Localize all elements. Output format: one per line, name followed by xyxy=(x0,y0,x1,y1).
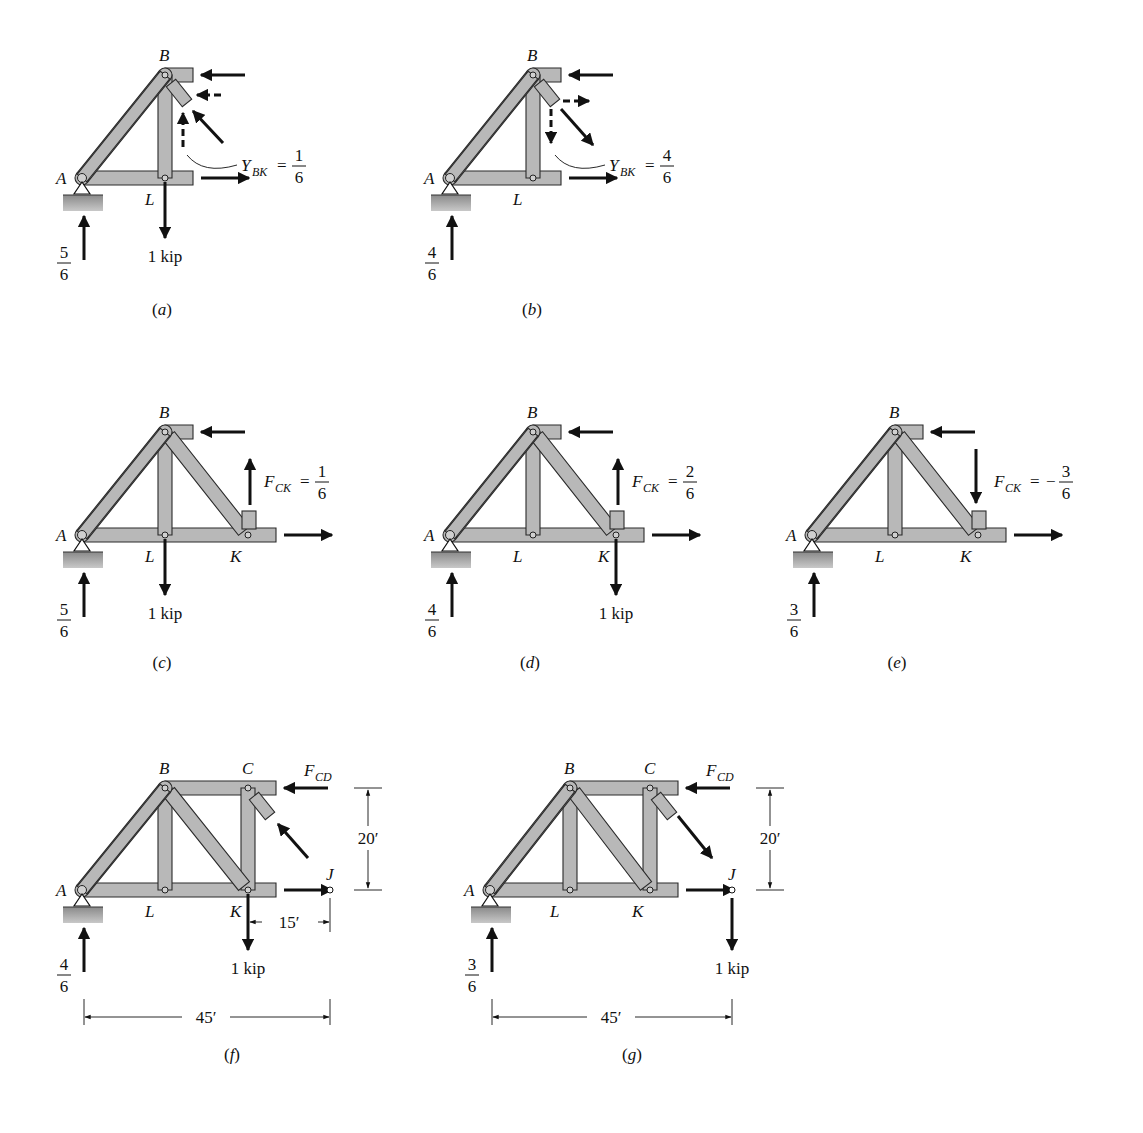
fraction-numerator: 4 xyxy=(428,243,437,262)
pin-joint xyxy=(892,532,898,538)
node-label-A: A xyxy=(55,169,67,188)
reaction-fraction: 36 xyxy=(787,600,801,641)
subscript: CD xyxy=(717,770,734,784)
pin-joint xyxy=(162,785,168,791)
node-label-L: L xyxy=(144,190,154,209)
node-label-A: A xyxy=(423,526,435,545)
panel-caption: (c) xyxy=(153,653,172,672)
pin-joint xyxy=(567,785,573,791)
fraction-numerator: 5 xyxy=(60,600,69,619)
pin-joint xyxy=(647,887,653,893)
panel-d: ABLK46FCK=261 kip(d) xyxy=(423,403,700,672)
node-label-K: K xyxy=(229,547,243,566)
subscript: CK xyxy=(1005,481,1022,495)
pin-joint xyxy=(567,887,573,893)
caption-text: (f) xyxy=(224,1045,240,1064)
ground-hatch xyxy=(63,195,103,211)
node-label-B: B xyxy=(159,759,170,778)
pin-joint xyxy=(162,72,168,78)
pin-joint xyxy=(530,429,536,435)
node-label-L: L xyxy=(144,902,154,921)
symbol: F xyxy=(263,472,275,491)
node-label-J: J xyxy=(728,865,737,884)
leader-line xyxy=(555,155,605,168)
node-label-B: B xyxy=(159,46,170,65)
caption-text: (b) xyxy=(522,300,542,319)
diagonal-BK xyxy=(894,432,980,536)
node-label-A: A xyxy=(463,881,475,900)
chord-AB-body xyxy=(485,784,574,893)
panel-caption: (b) xyxy=(522,300,542,319)
panel-f: ABLKC461 kipFCDJ20′15′45′(f) xyxy=(55,759,382,1064)
subscript: BK xyxy=(620,165,636,179)
fraction-denominator: 6 xyxy=(1062,484,1071,503)
reaction-fraction: 56 xyxy=(57,243,71,284)
member-force-arrow xyxy=(561,109,593,145)
dim-span-label: 45′ xyxy=(196,1008,217,1027)
panel-caption: (f) xyxy=(224,1045,240,1064)
reaction-fraction: 36 xyxy=(465,955,479,996)
caption-text: (e) xyxy=(888,653,907,672)
node-label-K: K xyxy=(959,547,973,566)
annotation-fraction: 26 xyxy=(683,462,697,503)
annotation-fraction: 36 xyxy=(1059,462,1073,503)
node-label-L: L xyxy=(874,547,884,566)
node-label-B: B xyxy=(527,403,538,422)
chord-AB-body xyxy=(807,428,899,539)
leader-line xyxy=(187,155,237,168)
node-label-K: K xyxy=(597,547,611,566)
diagonal-force-arrow xyxy=(278,824,308,858)
equals-sign: = xyxy=(1030,472,1040,491)
load-label: 1 kip xyxy=(148,247,182,266)
cut-vertical-CK xyxy=(972,511,986,529)
cut-vertical-CK xyxy=(610,511,624,529)
reaction-fraction: 46 xyxy=(57,955,71,996)
reaction-fraction: 56 xyxy=(57,600,71,641)
fraction-numerator: 1 xyxy=(318,462,327,481)
node-label-A: A xyxy=(55,526,67,545)
ground-hatch xyxy=(63,552,103,568)
fraction-numerator: 3 xyxy=(468,955,477,974)
annotation-label: FCK=26 xyxy=(631,462,697,503)
fraction-denominator: 6 xyxy=(790,622,799,641)
fraction-denominator: 6 xyxy=(686,484,695,503)
fraction-denominator: 6 xyxy=(295,168,304,187)
pin-joint xyxy=(530,175,536,181)
pin-joint xyxy=(245,785,251,791)
pin-joint xyxy=(245,532,251,538)
minus-sign: − xyxy=(1046,472,1056,491)
node-label-A: A xyxy=(785,526,797,545)
pin-joint xyxy=(530,72,536,78)
force-label-FCD: FCD xyxy=(303,761,332,784)
reaction-fraction: 46 xyxy=(425,243,439,284)
fraction-denominator: 6 xyxy=(60,622,69,641)
symbol: F xyxy=(705,761,717,780)
fraction-numerator: 4 xyxy=(663,146,672,165)
fraction-numerator: 3 xyxy=(1062,462,1071,481)
node-label-L: L xyxy=(144,547,154,566)
annotation-symbol: FCK xyxy=(263,472,292,495)
node-label-L: L xyxy=(512,547,522,566)
annotation-label: YBK=46 xyxy=(609,146,674,187)
panel-a: ABL56YBK=161 kip(a) xyxy=(55,46,306,319)
fraction-denominator: 6 xyxy=(60,265,69,284)
load-label: 1 kip xyxy=(148,604,182,623)
diagonal-BK xyxy=(568,788,651,891)
pin-joint xyxy=(613,532,619,538)
fraction-numerator: 3 xyxy=(790,600,799,619)
pin-joint xyxy=(892,429,898,435)
node-label-K: K xyxy=(631,902,645,921)
subscript: CK xyxy=(643,481,660,495)
panel-caption: (e) xyxy=(888,653,907,672)
annotation-symbol: FCK xyxy=(993,472,1022,495)
equals-sign: = xyxy=(645,156,655,175)
caption-text: (a) xyxy=(152,300,172,319)
pin-joint xyxy=(162,887,168,893)
annotation-symbol: YBK xyxy=(609,156,636,179)
node-label-L: L xyxy=(512,190,522,209)
node-label-C: C xyxy=(242,759,254,778)
subscript: BK xyxy=(252,165,268,179)
node-label-B: B xyxy=(889,403,900,422)
annotation-fraction: 16 xyxy=(315,462,329,503)
node-label-J: J xyxy=(326,865,335,884)
